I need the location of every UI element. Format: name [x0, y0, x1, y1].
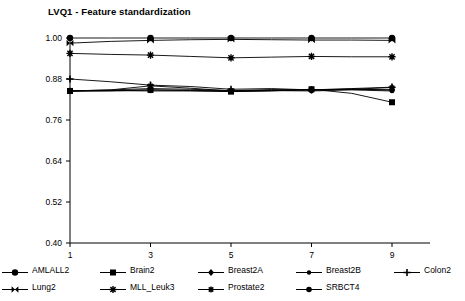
legend-marker-diamond-icon [196, 267, 226, 278]
legend-item-label: Brain2 [128, 265, 155, 275]
x-axis-ticks: 13579 [68, 243, 395, 260]
legend-item-breast2a[interactable]: Breast2A [196, 261, 263, 278]
y-tick-label: 0.64 [45, 156, 62, 166]
data-point-marker [227, 54, 234, 61]
chart-container: LVQ1 - Feature standardization 1.000.880… [0, 0, 465, 301]
legend-item-brain2[interactable]: Brain2 [98, 261, 155, 278]
legend-row-2: Lung2MLL_Leuk3Prostate2SRBCT4 [0, 278, 465, 295]
data-point-marker [208, 287, 214, 293]
legend-item-lung2[interactable]: Lung2 [0, 278, 56, 295]
data-point-marker [147, 51, 154, 58]
legend-marker-star-small-icon [196, 284, 226, 295]
legend-marker-circle-small-icon [294, 267, 324, 278]
legend-sample [0, 281, 30, 292]
legend-item-label: Prostate2 [226, 282, 264, 292]
data-point-marker [109, 286, 116, 293]
legend-item-label: Colon2 [422, 265, 451, 275]
legend-sample [0, 264, 30, 275]
legend-marker-circle-filled-icon [294, 284, 324, 295]
legend-sample [294, 264, 324, 275]
legend-item-label: AMLALL2 [30, 265, 69, 275]
y-tick-label: 1.00 [45, 33, 62, 43]
data-point-marker [388, 53, 395, 60]
legend-sample [98, 281, 128, 292]
legend-sample [98, 264, 128, 275]
y-tick-label: 0.52 [45, 197, 62, 207]
legend-item-prostate2[interactable]: Prostate2 [196, 278, 264, 295]
legend-sample [196, 264, 226, 275]
data-point-marker [67, 35, 73, 41]
chart-legend: AMLALL2Brain2Breast2ABreast2BColon2 Lung… [0, 261, 465, 295]
legend-row-1: AMLALL2Brain2Breast2ABreast2BColon2 [0, 261, 465, 278]
legend-marker-star-icon [98, 284, 128, 295]
y-tick-label: 0.88 [45, 74, 62, 84]
legend-item-label: Breast2B [324, 265, 361, 275]
x-tick-label: 7 [309, 250, 314, 260]
legend-marker-circle-icon [0, 267, 30, 278]
legend-marker-square-icon [98, 267, 128, 278]
legend-item-label: Lung2 [30, 282, 56, 292]
data-series-group [66, 35, 395, 105]
legend-item-breast2b[interactable]: Breast2B [294, 261, 361, 278]
data-point-marker [148, 87, 154, 93]
data-point-marker [306, 287, 312, 293]
data-point-marker [228, 88, 234, 94]
x-tick-label: 1 [68, 250, 73, 260]
legend-sample [294, 281, 324, 292]
data-point-marker [67, 88, 73, 94]
x-tick-label: 3 [148, 250, 153, 260]
data-point-marker [308, 53, 315, 60]
legend-marker-bowtie-icon [0, 284, 30, 295]
y-tick-label: 0.40 [45, 238, 62, 248]
legend-item-label: Breast2A [226, 265, 263, 275]
legend-item-label: MLL_Leuk3 [128, 282, 174, 292]
legend-item-mll_leuk3[interactable]: MLL_Leuk3 [98, 278, 174, 295]
y-axis-ticks: 1.000.880.760.640.520.40 [45, 33, 70, 248]
data-point-marker [66, 75, 73, 82]
series-mll_leuk3 [66, 50, 395, 62]
data-point-marker [208, 269, 214, 276]
y-tick-label: 0.76 [45, 115, 62, 125]
legend-item-label: SRBCT4 [324, 282, 360, 292]
data-point-marker [12, 269, 18, 275]
data-point-marker [307, 270, 311, 274]
legend-item-srbct4[interactable]: SRBCT4 [294, 278, 360, 295]
legend-item-amlall2[interactable]: AMLALL2 [0, 261, 69, 278]
data-point-marker [389, 87, 395, 93]
x-tick-label: 9 [390, 250, 395, 260]
plot-area: 1.000.880.760.640.520.40 13579 [0, 0, 465, 301]
data-point-marker [389, 99, 395, 105]
data-point-marker [403, 269, 410, 276]
data-point-marker [66, 50, 73, 57]
legend-sample [196, 281, 226, 292]
legend-item-colon2[interactable]: Colon2 [392, 261, 451, 278]
legend-sample [392, 264, 422, 275]
data-point-marker [309, 87, 315, 93]
x-tick-label: 5 [229, 250, 234, 260]
data-point-marker [110, 270, 116, 276]
legend-marker-plus-icon [392, 267, 422, 278]
